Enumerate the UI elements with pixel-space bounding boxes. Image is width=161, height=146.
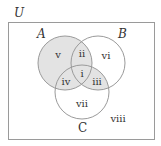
label-set-c: C bbox=[78, 121, 87, 135]
region-i: i bbox=[80, 68, 83, 79]
region-vii: vii bbox=[75, 98, 88, 109]
label-set-a: A bbox=[36, 27, 46, 41]
label-set-b: B bbox=[117, 27, 127, 41]
region-vi: vi bbox=[101, 50, 111, 61]
venn-diagram: U A B C i ii iii iv v vi vii viii bbox=[0, 0, 161, 146]
region-v: v bbox=[54, 49, 61, 60]
region-iv: iv bbox=[62, 76, 71, 87]
label-universe: U bbox=[14, 6, 25, 20]
region-viii: viii bbox=[109, 113, 125, 124]
region-ii: ii bbox=[79, 48, 85, 59]
region-iii: iii bbox=[92, 76, 102, 87]
